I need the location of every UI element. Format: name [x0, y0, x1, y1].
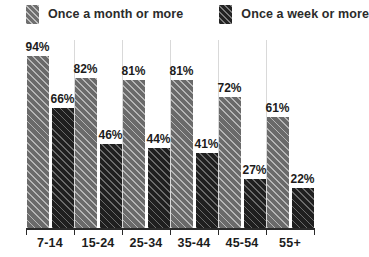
chart-bar-groups: 94%66%82%46%81%44%81%41%72%27%61%22%: [26, 40, 314, 228]
x-axis-tick: [314, 228, 315, 235]
bar-group-15-24: 82%46%: [74, 40, 122, 228]
bar-slot: 44%: [148, 40, 170, 228]
x-axis-category-labels: 7-1415-2425-3435-4445-5455+: [26, 233, 314, 255]
bar-value-label: 46%: [98, 129, 122, 141]
bar-slot: 22%: [292, 40, 314, 228]
x-axis-label-15-24: 15-24: [74, 233, 122, 255]
bar-value-label: 41%: [194, 138, 218, 150]
bar-7-14-series-2: [52, 108, 74, 228]
bar-value-label: 22%: [290, 173, 314, 185]
bar-value-label: 94%: [25, 41, 49, 53]
bar-25-34-series-2: [148, 148, 170, 228]
bar-55+-series-1: [267, 117, 289, 228]
x-axis-label-25-34: 25-34: [122, 233, 170, 255]
bar-value-label: 27%: [242, 164, 266, 176]
bar-15-24-series-2: [100, 144, 122, 228]
bar-group-bars: 72%27%: [218, 40, 266, 228]
bar-45-54-series-2: [244, 179, 266, 228]
bar-group-45-54: 72%27%: [218, 40, 266, 228]
bar-value-label: 61%: [265, 102, 289, 114]
bar-slot: 82%: [75, 40, 97, 228]
x-axis-label-35-44: 35-44: [170, 233, 218, 255]
x-axis-tick: [26, 228, 27, 235]
x-axis-tick: [266, 228, 267, 235]
bar-55+-series-2: [292, 188, 314, 228]
bar-slot: 27%: [244, 40, 266, 228]
bar-group-bars: 81%44%: [122, 40, 170, 228]
bar-7-14-series-1: [27, 56, 49, 228]
bar-slot: 81%: [123, 40, 145, 228]
bar-value-label: 81%: [169, 65, 193, 77]
bar-value-label: 66%: [50, 93, 74, 105]
bar-group-bars: 94%66%: [26, 40, 74, 228]
bar-group-7-14: 94%66%: [26, 40, 74, 228]
bar-value-label: 81%: [121, 65, 145, 77]
bar-slot: 46%: [100, 40, 122, 228]
bar-value-label: 44%: [146, 133, 170, 145]
bar-value-label: 82%: [73, 63, 97, 75]
bar-group-25-34: 81%44%: [122, 40, 170, 228]
bar-group-bars: 61%22%: [266, 40, 314, 228]
bar-45-54-series-1: [219, 97, 241, 228]
x-axis-tick: [218, 228, 219, 235]
x-axis-tick: [74, 228, 75, 235]
bar-group-55+: 61%22%: [266, 40, 314, 228]
bar-35-44-series-1: [171, 80, 193, 228]
x-axis-label-45-54: 45-54: [218, 233, 266, 255]
x-axis-tick: [122, 228, 123, 235]
x-axis-tick: [170, 228, 171, 235]
bar-group-bars: 82%46%: [74, 40, 122, 228]
bar-group-35-44: 81%41%: [170, 40, 218, 228]
bar-slot: 41%: [196, 40, 218, 228]
bar-slot: 94%: [27, 40, 49, 228]
bar-slot: 72%: [219, 40, 241, 228]
bar-35-44-series-2: [196, 153, 218, 228]
bar-25-34-series-1: [123, 80, 145, 228]
bar-slot: 61%: [267, 40, 289, 228]
bar-value-label: 72%: [217, 82, 241, 94]
x-axis-label-7-14: 7-14: [26, 233, 74, 255]
x-axis-label-55+: 55+: [266, 233, 314, 255]
bar-slot: 66%: [52, 40, 74, 228]
bar-slot: 81%: [171, 40, 193, 228]
bar-15-24-series-1: [75, 78, 97, 228]
bar-group-bars: 81%41%: [170, 40, 218, 228]
